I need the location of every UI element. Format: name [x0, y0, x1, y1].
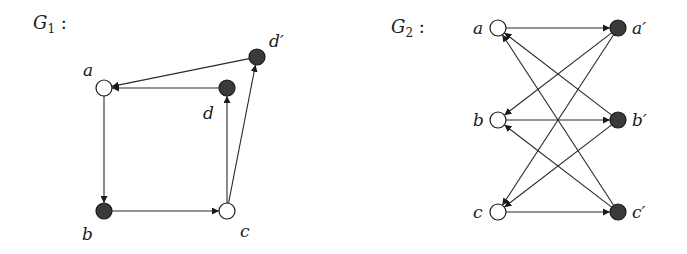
- node-label-a-prime: a′: [632, 18, 646, 38]
- graph-g1: G1 :add′bc: [33, 12, 284, 244]
- node-c-empty: [490, 204, 506, 220]
- graph-title-g1: G1 :: [33, 12, 67, 36]
- node-label-b: b: [473, 110, 484, 130]
- node-c-empty: [219, 203, 235, 219]
- node-a-empty: [96, 80, 112, 96]
- node-label-b: b: [82, 224, 93, 244]
- graph-diagram: G1 :add′bc G2 :abca′b′c′: [0, 0, 687, 254]
- node-b-prime-filled: [610, 112, 626, 128]
- node-label-c: c: [240, 221, 250, 241]
- node-label-a: a: [83, 60, 93, 80]
- node-label-c: c: [473, 202, 483, 222]
- node-label-b-prime: b′: [632, 110, 647, 130]
- node-label-a: a: [473, 18, 483, 38]
- node-d-prime-filled: [249, 49, 265, 65]
- node-b-empty: [490, 112, 506, 128]
- graph-g2: G2 :abca′b′c′: [391, 16, 647, 222]
- node-label-d: d: [203, 103, 214, 123]
- node-a-prime-filled: [610, 20, 626, 36]
- node-c-prime-filled: [610, 204, 626, 220]
- node-b-filled: [96, 203, 112, 219]
- node-label-d-prime: d′: [269, 31, 284, 51]
- graph-title-g2: G2 :: [391, 16, 425, 40]
- node-d-filled: [219, 80, 235, 96]
- node-a-empty: [490, 20, 506, 36]
- node-label-c-prime: c′: [632, 202, 646, 222]
